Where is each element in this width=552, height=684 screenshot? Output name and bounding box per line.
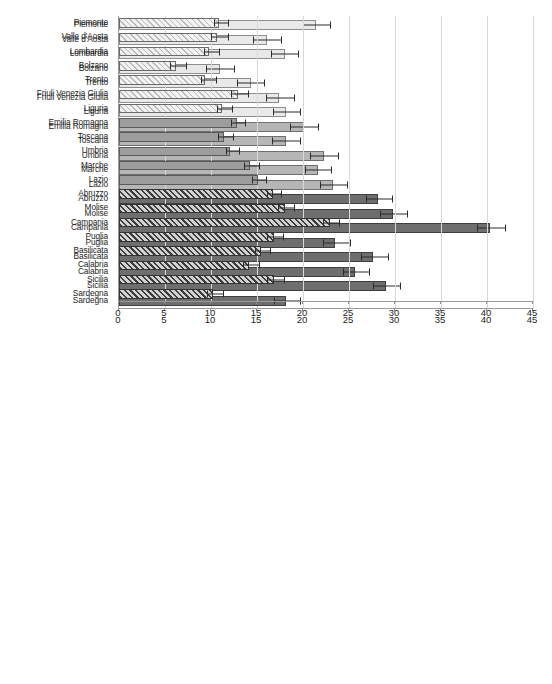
axis-tick-mark [532, 301, 533, 304]
bar-row [119, 161, 533, 171]
bar-row [119, 275, 533, 285]
error-bar-cap-high [248, 91, 249, 98]
axis-tick-label: 0 [115, 307, 120, 318]
bar-row [119, 90, 533, 100]
category-label: Toscana [78, 132, 108, 140]
axis-tick-label: 35 [435, 307, 446, 318]
error-bar-cap-low [214, 20, 215, 27]
error-bar-cap-high [339, 219, 340, 226]
error-bar-cap-high [283, 233, 284, 240]
bar-row [119, 232, 533, 242]
bar [119, 147, 230, 157]
error-bar-line [214, 23, 229, 24]
gridline [487, 16, 488, 301]
category-label: Sardegna [73, 289, 108, 297]
error-bar-cap-high [239, 148, 240, 155]
bar [119, 61, 176, 71]
bar-row [119, 261, 533, 271]
gridline [441, 16, 442, 301]
error-bar-cap-low [244, 162, 245, 169]
error-bar-line [243, 265, 259, 266]
error-bar-cap-low [211, 34, 212, 41]
category-label: Marche [81, 161, 108, 169]
bar [119, 118, 237, 128]
axis-tick-mark [486, 301, 487, 304]
error-bar-cap-high [245, 119, 246, 126]
category-label: Piemonte [74, 18, 108, 26]
category-label: Bolzano [79, 61, 108, 69]
error-bar-cap-low [255, 248, 256, 255]
bar-row [119, 132, 533, 142]
error-bar-line [267, 194, 281, 195]
bar-row [119, 118, 533, 128]
error-bar-cap-high [228, 34, 229, 41]
bar [119, 104, 222, 114]
error-bar-line [231, 94, 248, 95]
bar [119, 47, 209, 57]
bar [119, 232, 274, 242]
category-label: Basilicata [73, 246, 108, 254]
bar-row [119, 47, 533, 57]
error-bar-cap-low [231, 119, 232, 126]
error-bar-cap-low [267, 191, 268, 198]
error-bar-line [201, 80, 216, 81]
category-label: Puglia [86, 232, 108, 240]
error-bar-cap-high [232, 105, 233, 112]
category-label: Emilia Romagna [49, 118, 108, 126]
category-axis-bottom: PiemonteValle d'AostaLombardiaBolzanoTre… [0, 16, 112, 301]
bar-row [119, 289, 533, 299]
bar [119, 204, 285, 214]
bar [119, 33, 217, 43]
error-bar-cap-high [259, 262, 260, 269]
axis-tick-mark [256, 301, 257, 304]
error-bar-cap-low [207, 290, 208, 297]
error-bar-line [204, 51, 220, 52]
axis-tick-label: 5 [161, 307, 166, 318]
gridline [349, 16, 350, 301]
error-bar-cap-high [186, 62, 187, 69]
category-label: Lombardia [70, 47, 108, 55]
bar-row [119, 246, 533, 256]
error-bar-line [323, 222, 339, 223]
bar [119, 175, 258, 185]
error-bar-cap-low [201, 77, 202, 84]
category-label: Valle d'Aosta [62, 32, 108, 40]
error-bar-cap-high [233, 134, 234, 141]
error-bar-line [255, 251, 270, 252]
error-bar-line [217, 108, 233, 109]
category-label: Trento [85, 75, 108, 83]
category-label: Campania [71, 218, 108, 226]
bar-row [119, 147, 533, 157]
error-bar-cap-low [267, 276, 268, 283]
axis-tick-mark [164, 301, 165, 304]
bar-row [119, 61, 533, 71]
gridline [257, 16, 258, 301]
error-bar-line [207, 293, 223, 294]
error-bar-cap-high [259, 162, 260, 169]
category-label: Molise [85, 203, 108, 211]
axis-tick-label: 25 [343, 307, 354, 318]
error-bar-line [244, 165, 259, 166]
error-bar-cap-low [204, 48, 205, 55]
gridline [165, 16, 166, 301]
error-bar-cap-low [252, 176, 253, 183]
axis-tick-label: 20 [297, 307, 308, 318]
error-bar-line [278, 208, 294, 209]
gridline [303, 16, 304, 301]
error-bar-cap-low [226, 148, 227, 155]
category-label: Umbria [82, 146, 108, 154]
error-bar-cap-high [294, 205, 295, 212]
category-label: Sicilia [87, 275, 108, 283]
axis-tick-label: 45 [527, 307, 538, 318]
error-bar-cap-high [223, 290, 224, 297]
category-label: Lazio [89, 175, 108, 183]
bar-row [119, 104, 533, 114]
bar [119, 90, 238, 100]
axis-tick-mark [118, 301, 119, 304]
bar-row [119, 75, 533, 85]
error-bar-line [267, 236, 283, 237]
bar-row [119, 18, 533, 28]
bar-row [119, 33, 533, 43]
error-bar-cap-high [228, 20, 229, 27]
axis-tick-label: 40 [481, 307, 492, 318]
